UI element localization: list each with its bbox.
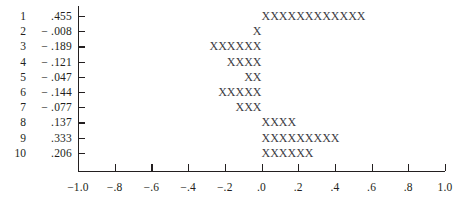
bar-marks: XXX bbox=[78, 100, 262, 114]
horizontal-axis-tick-label: −.6 bbox=[144, 180, 160, 194]
horizontal-axis-tick bbox=[408, 164, 409, 171]
bar-marks: XXXXXX bbox=[78, 39, 262, 53]
bar-marks: XXXXXXXXXXXX bbox=[262, 9, 446, 23]
bar-marks: XXXXX bbox=[78, 85, 262, 99]
horizontal-axis-tick-label: −.4 bbox=[180, 180, 196, 194]
horizontal-axis-tick bbox=[151, 164, 152, 171]
horizontal-axis-tick bbox=[298, 164, 299, 171]
horizontal-axis-tick bbox=[225, 164, 226, 171]
horizontal-axis-tick-label: −.8 bbox=[107, 180, 123, 194]
horizontal-axis-tick-label: −.2 bbox=[217, 180, 233, 194]
horizontal-axis-tick bbox=[372, 164, 373, 171]
horizontal-axis-tick-label: .4 bbox=[330, 180, 339, 194]
horizontal-axis-tick-label: .6 bbox=[367, 180, 376, 194]
horizontal-axis-tick bbox=[78, 164, 79, 171]
horizontal-axis-tick bbox=[115, 164, 116, 171]
bar-marks: XXXXXX bbox=[262, 146, 446, 160]
horizontal-axis-tick-label: −1.0 bbox=[67, 180, 89, 194]
bars: XXXXXXXXXXXXXXXXXXXXXXXXXXXXXXXXXXXXXXXX… bbox=[0, 0, 459, 165]
horizontal-axis-tick-label: .0 bbox=[257, 180, 266, 194]
bar-marks: XXXX bbox=[262, 115, 446, 129]
horizontal-axis-tick-label: 1.0 bbox=[438, 180, 453, 194]
bar-marks: X bbox=[78, 24, 262, 38]
bar-marks: XX bbox=[78, 70, 262, 84]
horizontal-axis-tick bbox=[188, 164, 189, 171]
horizontal-axis-tick-label: .2 bbox=[294, 180, 303, 194]
horizontal-axis bbox=[78, 171, 445, 172]
horizontal-axis-tick-label: .8 bbox=[404, 180, 413, 194]
bar-marks: XXXX bbox=[78, 55, 262, 69]
bar-marks: XXXXXXXXX bbox=[262, 131, 446, 145]
horizontal-axis-tick bbox=[335, 164, 336, 171]
horizontal-axis-tick bbox=[262, 164, 263, 171]
correlogram-figure: 1.4552− .0083− .1894− .1215− .0476− .144… bbox=[0, 0, 459, 202]
horizontal-axis-tick bbox=[445, 164, 446, 171]
